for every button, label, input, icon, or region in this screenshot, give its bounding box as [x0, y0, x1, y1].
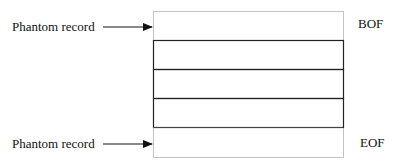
record-1: [154, 41, 344, 70]
phantom-record-top: [154, 12, 344, 41]
record-3: [154, 99, 344, 128]
phantom-record-bottom: [154, 128, 344, 158]
phantom-record-bottom-label: Phantom record: [12, 136, 95, 151]
bof-label: BOF: [358, 16, 383, 31]
record-2: [154, 70, 344, 99]
phantom-record-top-label: Phantom record: [12, 19, 95, 34]
eof-label: EOF: [360, 135, 385, 150]
